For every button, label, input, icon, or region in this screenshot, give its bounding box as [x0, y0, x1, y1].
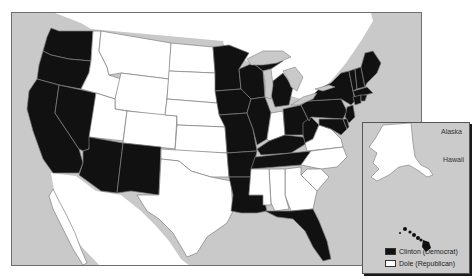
state-mt	[99, 31, 171, 79]
state-fl	[265, 209, 331, 261]
state-nd	[169, 43, 215, 73]
hawaii-label: Hawaii	[443, 156, 464, 163]
legend-label-republican: Dole (Republican)	[399, 260, 455, 267]
legend-item-democrat: Clinton (Democrat)	[385, 248, 458, 255]
legend-swatch-democrat-icon	[385, 248, 396, 255]
state-ak	[369, 123, 433, 181]
state-ri	[361, 95, 367, 101]
state-pa	[301, 99, 347, 121]
legend-swatch-republican-icon	[385, 260, 396, 267]
legend-label-democrat: Clinton (Democrat)	[399, 248, 458, 255]
state-nm	[117, 143, 161, 195]
legend-item-republican: Dole (Republican)	[385, 260, 455, 267]
alaska-label: Alaska	[441, 128, 462, 135]
main-map	[11, 12, 422, 266]
alaska-hawaii-inset: Alaska Hawaii Clinton (Democrat) Dole (R…	[362, 122, 470, 274]
state-sd	[167, 71, 217, 103]
state-co	[123, 111, 177, 149]
contiguous-us-map	[12, 13, 422, 266]
state-ct	[353, 95, 361, 105]
state-ks	[175, 125, 227, 153]
state-wy	[115, 73, 169, 116]
state-me	[361, 51, 381, 87]
